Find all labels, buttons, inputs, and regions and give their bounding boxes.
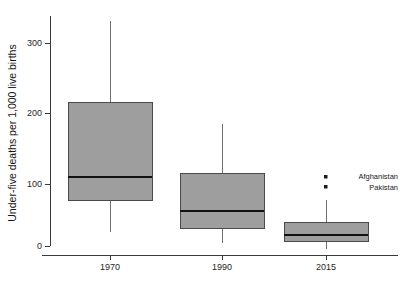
x-tick-label-1990: 1990 (212, 262, 232, 272)
y-axis-title: Under-five deaths per 1,000 live births (6, 44, 18, 221)
y-tick-label-200: 200 (27, 108, 42, 118)
outlier-point-pakistan (324, 185, 328, 189)
boxplot-svg: 300 200 100 0 Under-five deaths per 1,00… (0, 0, 404, 282)
outlier-point-afghanistan (324, 175, 328, 179)
annotation-label-pakistan: Pakistan (369, 183, 398, 192)
y-tick-label-300: 300 (27, 38, 42, 48)
box-rect-1990 (180, 173, 264, 228)
boxplot-figure: 300 200 100 0 Under-five deaths per 1,00… (0, 0, 404, 282)
box-group-1990 (180, 124, 264, 243)
box-rect-1970 (68, 102, 152, 200)
annotation-label-afghanistan: Afghanistan (358, 172, 398, 181)
box-group-1970 (68, 21, 152, 232)
x-tick-label-1970: 1970 (100, 262, 120, 272)
x-tick-label-2015: 2015 (316, 262, 336, 272)
y-tick-label-100: 100 (27, 179, 42, 189)
box-rect-2015 (284, 222, 368, 241)
box-group-2015 (284, 175, 368, 249)
y-tick-label-0: 0 (37, 241, 42, 251)
